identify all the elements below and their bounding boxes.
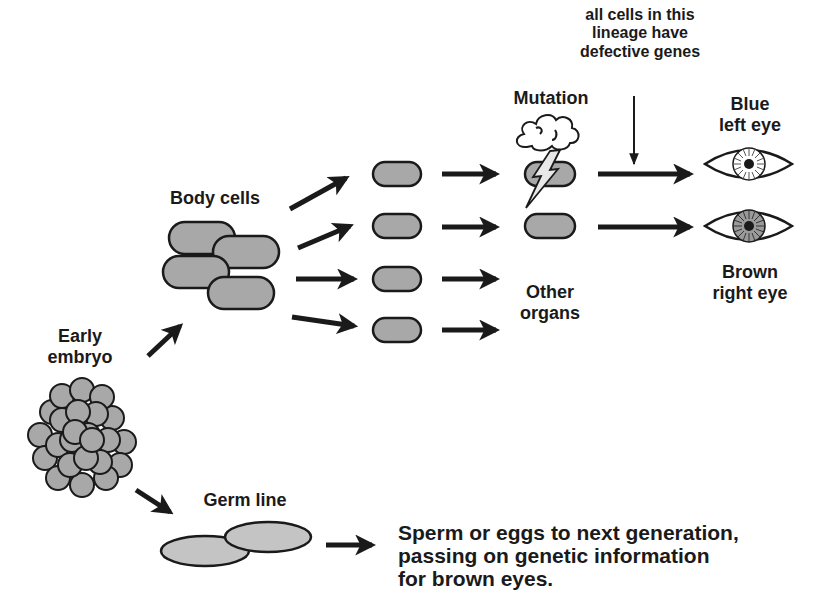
mutation-label: Mutation bbox=[506, 88, 596, 109]
storm-cloud-icon bbox=[517, 115, 579, 150]
annotation-label: all cells in this lineage have defective… bbox=[560, 6, 720, 61]
normal-cell-icon bbox=[525, 214, 575, 238]
next-generation-text: Sperm or eggs to next generation, passin… bbox=[398, 521, 818, 590]
early-embryo-icon bbox=[28, 378, 136, 497]
brown-right-eye-icon bbox=[705, 210, 792, 242]
blue-left-eye-icon bbox=[705, 148, 792, 180]
germ-line-icon bbox=[161, 522, 311, 566]
brown-right-eye-label: Brown right eye bbox=[700, 262, 800, 303]
other-organs-label: Other organs bbox=[500, 282, 600, 323]
blue-left-eye-label: Blue left eye bbox=[700, 94, 800, 135]
lineage-cells-icon bbox=[373, 162, 421, 342]
germ-line-label: Germ line bbox=[190, 490, 300, 511]
arrow-to-germ-line bbox=[136, 490, 170, 512]
body-cells-label: Body cells bbox=[155, 188, 275, 209]
arrow-to-body-cells bbox=[148, 326, 180, 356]
body-cells-icon bbox=[163, 222, 279, 309]
early-embryo-label: Early embryo bbox=[30, 326, 130, 367]
